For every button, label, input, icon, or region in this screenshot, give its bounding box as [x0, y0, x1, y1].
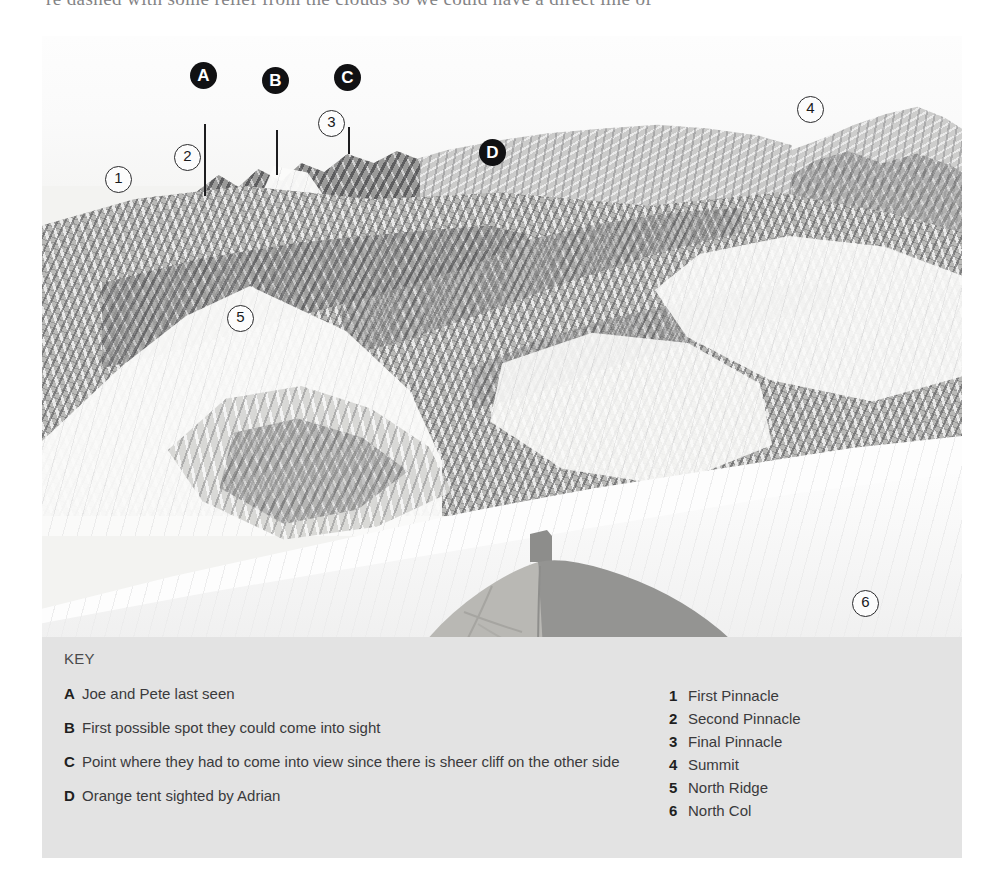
annotated-photograph: A B C D 1 2 3 4 5 6: [42, 36, 962, 637]
marker-c-label: C: [341, 68, 353, 87]
tent-light-panel: [408, 562, 544, 637]
key-title: KEY: [64, 650, 95, 667]
key-row-b: B First possible spot they could come in…: [64, 719, 620, 736]
key-row-d: D Orange tent sighted by Adrian: [64, 787, 620, 804]
marker-2-label: 2: [183, 147, 191, 164]
tent-dark-panel: [538, 560, 754, 637]
marker-3-label: 3: [327, 113, 335, 130]
marker-d-label: D: [486, 143, 498, 162]
leader-line-c: [348, 127, 350, 154]
key-number-3: 3: [669, 733, 688, 750]
marker-1-label: 1: [114, 169, 122, 186]
key-number-text-6: North Col: [688, 802, 751, 819]
marker-a[interactable]: A: [190, 62, 217, 89]
key-number-text-3: Final Pinnacle: [688, 733, 782, 750]
tent-vent: [530, 530, 552, 562]
key-text-b: First possible spot they could come into…: [82, 719, 380, 736]
key-number-1: 1: [669, 687, 688, 704]
photo-canvas: A B C D 1 2 3 4 5 6: [42, 36, 962, 637]
key-letter-c: C: [64, 753, 82, 770]
key-num-row-2: 2 Second Pinnacle: [669, 710, 801, 727]
key-number-text-1: First Pinnacle: [688, 687, 779, 704]
key-letter-a: A: [64, 685, 82, 702]
key-text-a: Joe and Pete last seen: [82, 685, 235, 702]
key-row-a: A Joe and Pete last seen: [64, 685, 620, 702]
key-num-row-4: 4 Summit: [669, 756, 801, 773]
key-num-row-6: 6 North Col: [669, 802, 801, 819]
key-panel: KEY A Joe and Pete last seen B First pos…: [42, 637, 962, 858]
key-number-text-5: North Ridge: [688, 779, 768, 796]
marker-4[interactable]: 4: [797, 96, 824, 123]
key-num-row-1: 1 First Pinnacle: [669, 687, 801, 704]
leader-line-a: [204, 124, 206, 196]
leader-line-b: [276, 130, 278, 175]
marker-3[interactable]: 3: [318, 110, 345, 137]
marker-2[interactable]: 2: [174, 144, 201, 171]
key-num-row-5: 5 North Ridge: [669, 779, 801, 796]
key-number-6: 6: [669, 802, 688, 819]
marker-1[interactable]: 1: [105, 166, 132, 193]
key-text-c: Point where they had to come into view s…: [82, 753, 620, 770]
marker-6[interactable]: 6: [852, 590, 879, 617]
page-top-text-fragment: re dashed with some relief from the clou…: [46, 0, 946, 8]
marker-b-label: B: [269, 71, 281, 90]
marker-b[interactable]: B: [262, 67, 289, 94]
key-num-row-3: 3 Final Pinnacle: [669, 733, 801, 750]
key-letter-b: B: [64, 719, 82, 736]
marker-6-label: 6: [861, 593, 869, 610]
key-number-4: 4: [669, 756, 688, 773]
orange-tent: [372, 526, 792, 637]
key-row-c: C Point where they had to come into view…: [64, 753, 620, 770]
marker-4-label: 4: [806, 99, 814, 116]
key-letter-list: A Joe and Pete last seen B First possibl…: [64, 685, 620, 821]
marker-a-label: A: [197, 66, 209, 85]
key-text-d: Orange tent sighted by Adrian: [82, 787, 280, 804]
marker-d[interactable]: D: [479, 139, 506, 166]
key-letter-d: D: [64, 787, 82, 804]
key-number-5: 5: [669, 779, 688, 796]
key-number-text-2: Second Pinnacle: [688, 710, 801, 727]
key-number-list: 1 First Pinnacle 2 Second Pinnacle 3 Fin…: [669, 687, 801, 825]
marker-5-label: 5: [236, 308, 244, 325]
marker-5[interactable]: 5: [227, 305, 254, 332]
key-number-2: 2: [669, 710, 688, 727]
key-number-text-4: Summit: [688, 756, 739, 773]
marker-c[interactable]: C: [334, 64, 361, 91]
